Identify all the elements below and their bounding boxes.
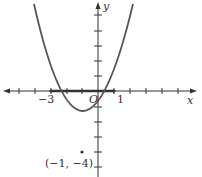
x-axis-left-arrow-icon (3, 89, 10, 94)
tick-label-1: 1 (117, 93, 124, 106)
parabola-graph: y x O −3 1 (−1, −4) (0, 0, 202, 177)
x-axis-right-arrow-icon (190, 89, 197, 94)
y-axis-label: y (102, 0, 110, 13)
vertex-label: (−1, −4) (45, 157, 93, 170)
x-axis-label: x (187, 94, 194, 107)
origin-label: O (89, 93, 98, 106)
vertex-point (80, 150, 83, 153)
y-axis-arrow-icon (96, 2, 101, 9)
root-point-1 (112, 89, 115, 92)
tick-label-neg3: −3 (38, 93, 54, 106)
